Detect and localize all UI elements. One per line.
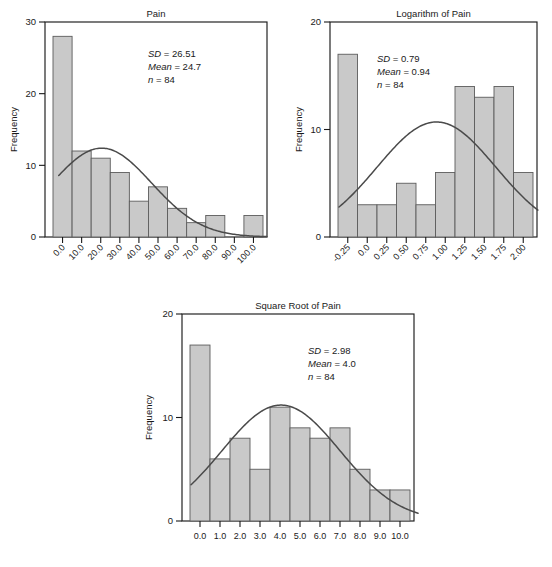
stat-annotation-mean: Mean = 24.7 — [148, 61, 201, 72]
stat-annotation-sd: SD = 2.98 — [308, 345, 351, 356]
chart-title: Square Root of Pain — [255, 300, 341, 311]
stat-separator: = — [382, 79, 393, 90]
stat-value: 84 — [164, 74, 175, 85]
x-axis-tick-label: 100.0 — [235, 242, 258, 265]
x-axis-tick-label: 0.0 — [194, 531, 207, 541]
histogram-bar — [358, 205, 378, 237]
x-axis-tick-label: 80.0 — [200, 242, 219, 261]
histogram-bar — [416, 205, 436, 237]
y-axis-tick-label: 20 — [25, 88, 36, 99]
x-axis-tick-label: 1.00 — [430, 242, 449, 261]
stat-value: 0.79 — [401, 53, 420, 64]
y-axis-tick-label: 0 — [168, 515, 173, 526]
x-axis-tick-label: 8.0 — [354, 531, 367, 541]
histogram-bar — [290, 428, 310, 521]
histogram-bar — [338, 54, 358, 237]
x-axis-tick-label: 3.0 — [254, 531, 267, 541]
stat-annotation-mean: Mean = 0.94 — [377, 66, 430, 77]
x-axis-tick-label: 1.50 — [469, 242, 488, 261]
stat-separator: = — [390, 53, 401, 64]
x-axis-tick-label: 20.0 — [86, 242, 105, 261]
stat-separator: = — [321, 345, 332, 356]
stat-separator: = — [332, 358, 343, 369]
histogram-bar — [190, 345, 210, 521]
stat-value: 24.7 — [183, 61, 202, 72]
stat-separator: = — [172, 61, 183, 72]
y-axis-tick-label: 10 — [310, 124, 321, 135]
stat-key: SD — [308, 345, 321, 356]
histogram-bar — [370, 490, 390, 521]
y-axis-label: Frequency — [8, 107, 19, 152]
histogram-bar — [350, 469, 370, 521]
stat-key: SD — [377, 53, 390, 64]
y-axis-label: Frequency — [293, 107, 304, 152]
stat-separator: = — [153, 74, 164, 85]
stat-annotation-sd: SD = 0.79 — [377, 53, 420, 64]
stat-key: Mean — [148, 61, 172, 72]
stat-value: 4.0 — [343, 358, 356, 369]
stat-annotation-n: n = 84 — [377, 79, 404, 90]
histogram-bar — [148, 187, 167, 237]
x-axis-tick-label: 1.25 — [450, 242, 469, 261]
x-axis-tick-label: 1.0 — [214, 531, 227, 541]
chart-sqrt: Square Root of PainFrequency010200.01.02… — [130, 292, 430, 567]
x-axis-tick-label: 0.0 — [356, 242, 372, 258]
histogram-bar — [72, 151, 91, 237]
chart-pain: PainFrequency01020300.010.020.030.040.05… — [0, 0, 282, 292]
y-axis-tick-label: 20 — [162, 308, 173, 319]
histogram-bar — [377, 205, 397, 237]
histogram-bar — [455, 87, 475, 238]
chart-title: Pain — [146, 8, 165, 19]
stat-annotation-n: n = 84 — [148, 74, 175, 85]
x-axis-tick-label: 40.0 — [124, 242, 143, 261]
x-axis-tick-label: 0.50 — [391, 242, 410, 261]
histogram-bar — [53, 36, 72, 237]
stat-value: 84 — [324, 371, 335, 382]
x-axis-tick-label: 10.0 — [67, 242, 86, 261]
histogram-bar — [514, 173, 534, 238]
histogram-bar — [250, 469, 270, 521]
x-axis-tick-label: 2.0 — [234, 531, 247, 541]
stat-separator: = — [161, 48, 172, 59]
histogram-bar — [310, 438, 330, 521]
y-axis-tick-label: 0 — [316, 231, 321, 242]
x-axis-tick-label: 6.0 — [314, 531, 327, 541]
stat-value: 84 — [393, 79, 404, 90]
histogram-panel-pain: PainFrequency01020300.010.020.030.040.05… — [0, 0, 282, 292]
x-axis-tick-label: 9.0 — [374, 531, 387, 541]
x-axis-tick-label: 10.0 — [391, 531, 409, 541]
x-axis-tick-label: 0.75 — [411, 242, 430, 261]
x-axis-tick-label: 50.0 — [143, 242, 162, 261]
x-axis-tick-label: 0.25 — [372, 242, 391, 261]
stat-annotation-mean: Mean = 4.0 — [308, 358, 356, 369]
stat-value: 2.98 — [332, 345, 351, 356]
stat-key: Mean — [377, 66, 401, 77]
histogram-bar — [475, 97, 495, 237]
histogram-bar — [110, 173, 129, 238]
histogram-panel-square-root: Square Root of PainFrequency010200.01.02… — [130, 292, 430, 567]
stat-annotation-sd: SD = 26.51 — [148, 48, 196, 59]
histogram-bar — [397, 183, 417, 237]
stat-annotation-n: n = 84 — [308, 371, 335, 382]
chart-log: Logarithm of PainFrequency01020-0.250.00… — [285, 0, 552, 292]
x-axis-tick-label: 1.75 — [489, 242, 508, 261]
x-axis-tick-label: 60.0 — [162, 242, 181, 261]
histogram-bar — [270, 407, 290, 521]
histogram-panel-logarithm: Logarithm of PainFrequency01020-0.250.00… — [285, 0, 552, 292]
histogram-bar — [91, 158, 110, 237]
histogram-bar — [168, 208, 187, 237]
y-axis-tick-label: 30 — [25, 16, 36, 27]
histogram-bar — [210, 459, 230, 521]
histogram-bar — [230, 438, 250, 521]
x-axis-tick-label: 0.0 — [51, 242, 67, 258]
x-axis-tick-label: 30.0 — [105, 242, 124, 261]
histogram-bar — [494, 87, 514, 238]
histogram-bar — [436, 173, 456, 238]
x-axis-tick-label: 2.00 — [508, 242, 527, 261]
stat-value: 26.51 — [172, 48, 196, 59]
stat-key: Mean — [308, 358, 332, 369]
histogram-bar — [244, 216, 263, 238]
stat-separator: = — [401, 66, 412, 77]
y-axis-tick-label: 20 — [310, 16, 321, 27]
histogram-bar — [206, 216, 225, 238]
